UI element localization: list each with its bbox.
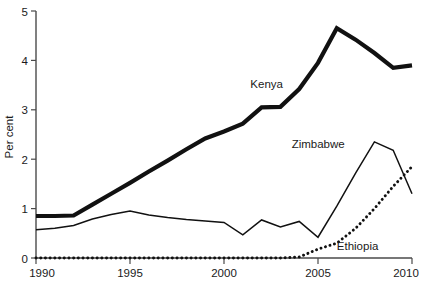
y-tick-label-1: 1 bbox=[22, 203, 28, 215]
y-axis-ticks bbox=[31, 11, 36, 258]
x-tick-label-2005: 2005 bbox=[305, 267, 331, 279]
x-tick-label-1995: 1995 bbox=[117, 267, 143, 279]
series-label-zimbabwe: Zimbabwe bbox=[292, 138, 345, 150]
x-tick-label-2000: 2000 bbox=[211, 267, 237, 279]
y-tick-label-3: 3 bbox=[22, 104, 28, 116]
data-series-group bbox=[36, 28, 412, 258]
series-line-zimbabwe bbox=[36, 142, 412, 237]
series-line-kenya bbox=[36, 28, 412, 216]
x-tick-label-1990: 1990 bbox=[29, 267, 55, 279]
x-tick-label-2010: 2010 bbox=[393, 267, 419, 279]
x-axis: 1990 1995 2000 2005 2010 bbox=[29, 258, 419, 279]
y-tick-label-4: 4 bbox=[22, 55, 29, 67]
series-label-kenya: Kenya bbox=[250, 78, 283, 90]
series-label-ethiopia: Ethiopia bbox=[337, 240, 379, 252]
series-annotations: Kenya Zimbabwe Ethiopia bbox=[250, 78, 379, 252]
chart-container: 5 4 3 2 1 0 Per cent 1990 1995 2000 2005… bbox=[0, 0, 433, 286]
y-tick-label-0: 0 bbox=[22, 253, 28, 265]
line-chart: 5 4 3 2 1 0 Per cent 1990 1995 2000 2005… bbox=[0, 0, 433, 286]
y-tick-label-5: 5 bbox=[22, 6, 28, 18]
y-axis-title: Per cent bbox=[3, 115, 15, 159]
y-axis: 5 4 3 2 1 0 Per cent bbox=[3, 6, 36, 265]
y-tick-label-2: 2 bbox=[22, 154, 28, 166]
